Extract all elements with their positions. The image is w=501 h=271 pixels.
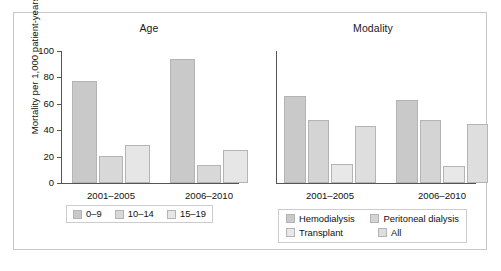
legend-item-hemodialysis: Hemodialysis — [286, 214, 370, 223]
legend-swatch-icon-peritoneal-dialysis — [370, 214, 379, 223]
legend-label-hemodialysis: Hemodialysis — [299, 214, 355, 223]
y-tick-label: 100 — [32, 46, 54, 56]
bar — [308, 120, 330, 183]
bar — [396, 100, 418, 183]
y-tick-mark — [57, 183, 61, 184]
legend-modality: Hemodialysis Peritoneal dialysis Transpl… — [278, 209, 467, 243]
y-tick-mark — [57, 104, 61, 105]
bar — [284, 96, 306, 183]
legend-item-10-14: 10–14 — [115, 209, 154, 218]
x-tick-label: 2001–2005 — [62, 190, 160, 201]
bar — [355, 126, 377, 183]
x-tick-label: 2006–2010 — [160, 190, 258, 201]
legend-swatch-icon-10-14 — [115, 210, 124, 219]
bar — [331, 164, 353, 183]
x-tick-label: 2006–2010 — [386, 190, 498, 201]
legend-label-transplant: Transplant — [299, 228, 343, 237]
legend-item-all: All — [378, 228, 401, 237]
legend-item-15-19: 15–19 — [167, 209, 206, 218]
y-tick-mark — [57, 157, 61, 158]
legend-label-peritoneal-dialysis: Peritoneal dialysis — [383, 214, 459, 223]
y-tick-label: 80 — [32, 72, 54, 82]
bar — [223, 150, 248, 183]
legend-age: 0–9 10–14 15–19 — [66, 205, 213, 223]
y-tick-label: 20 — [32, 152, 54, 162]
legend-swatch-icon-hemodialysis — [286, 214, 295, 223]
legend-label-15-19: 15–19 — [180, 209, 206, 218]
y-tick-mark — [57, 51, 61, 52]
bar — [467, 124, 489, 183]
y-axis-line — [61, 51, 62, 184]
legend-item-0-9: 0–9 — [73, 209, 102, 218]
legend-swatch-icon-transplant — [286, 228, 295, 237]
bar — [197, 165, 222, 183]
y-axis-line — [276, 51, 277, 184]
legend-label-all: All — [391, 228, 401, 237]
y-tick-mark — [57, 130, 61, 131]
bar — [420, 120, 442, 183]
legend-item-peritoneal-dialysis: Peritoneal dialysis — [370, 214, 459, 223]
legend-swatch-icon-15-19 — [167, 210, 176, 219]
legend-swatch-icon-0-9 — [73, 210, 82, 219]
chart-panel-age: Age Mortality per 1,000 patient-years 02… — [14, 13, 258, 249]
y-tick-mark — [57, 77, 61, 78]
legend-swatch-icon-all — [378, 228, 387, 237]
bar — [72, 81, 97, 183]
bar — [125, 145, 150, 183]
y-tick-label: 40 — [32, 125, 54, 135]
legend-label-0-9: 0–9 — [86, 209, 102, 218]
x-tick-label: 2001–2005 — [274, 190, 386, 201]
bar — [99, 156, 124, 183]
bar — [170, 59, 195, 183]
x-axis-line — [276, 183, 476, 184]
legend-item-transplant: Transplant — [286, 228, 378, 237]
bar — [443, 166, 465, 183]
chart-panel-modality: Modality 2001–20052006–2010 Hemodialysis… — [258, 13, 488, 249]
y-tick-label: 0 — [32, 178, 54, 188]
x-axis-line — [61, 183, 239, 184]
figure-frame: Age Mortality per 1,000 patient-years 02… — [13, 12, 487, 250]
y-tick-label: 60 — [32, 99, 54, 109]
legend-label-10-14: 10–14 — [128, 209, 154, 218]
